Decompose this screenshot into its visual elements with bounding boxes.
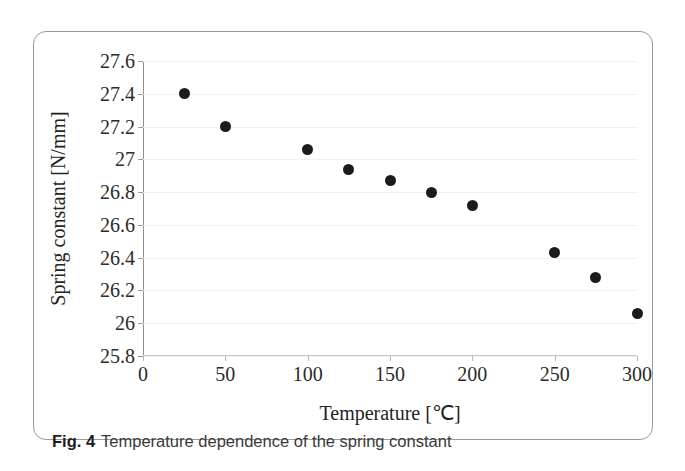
y-gridline (143, 258, 637, 259)
y-axis-line (143, 61, 144, 356)
y-axis-title: Spring constant [N/mm] (46, 61, 70, 356)
y-gridline (143, 225, 637, 226)
x-tick-mark (225, 356, 226, 361)
y-tick-label: 26.4 (100, 248, 135, 268)
y-gridline (143, 159, 637, 160)
x-tick-label: 100 (293, 364, 323, 384)
x-tick-mark (390, 356, 391, 361)
figure-caption-label: Fig. 4 (52, 432, 95, 450)
data-point (632, 308, 643, 319)
data-point (549, 247, 560, 258)
y-tick-mark (138, 290, 143, 291)
x-tick-label: 200 (457, 364, 487, 384)
y-tick-mark (138, 192, 143, 193)
x-tick-label: 250 (540, 364, 570, 384)
y-tick-label: 27 (115, 149, 135, 169)
data-point (426, 187, 437, 198)
y-tick-mark (138, 225, 143, 226)
data-point (220, 121, 231, 132)
y-tick-mark (138, 94, 143, 95)
y-gridline (143, 127, 637, 128)
data-point (343, 164, 354, 175)
y-tick-mark (138, 159, 143, 160)
figure-caption-text: Temperature dependence of the spring con… (101, 432, 451, 450)
x-tick-mark (143, 356, 144, 361)
y-gridline (143, 192, 637, 193)
chart-canvas: Spring constant [N/mm] 25.82626.226.426.… (34, 32, 654, 377)
data-point (467, 200, 478, 211)
data-point (385, 175, 396, 186)
x-tick-mark (637, 356, 638, 361)
x-tick-label: 150 (375, 364, 405, 384)
data-point (302, 144, 313, 155)
y-tick-label: 25.8 (100, 346, 135, 366)
x-tick-mark (308, 356, 309, 361)
x-tick-label: 50 (215, 364, 235, 384)
x-tick-label: 0 (138, 364, 148, 384)
x-axis-title: Temperature [℃] (143, 403, 637, 423)
y-tick-mark (138, 323, 143, 324)
y-tick-label: 27.6 (100, 51, 135, 71)
figure-caption: Fig. 4Temperature dependence of the spri… (52, 432, 636, 452)
y-gridline (143, 94, 637, 95)
y-tick-label: 26.2 (100, 280, 135, 300)
y-gridline (143, 290, 637, 291)
data-point (179, 88, 190, 99)
x-tick-label: 300 (622, 364, 652, 384)
y-gridline (143, 61, 637, 62)
y-tick-label: 26.6 (100, 215, 135, 235)
x-tick-mark (472, 356, 473, 361)
figure-card: Spring constant [N/mm] 25.82626.226.426.… (33, 31, 653, 440)
y-tick-mark (138, 61, 143, 62)
y-tick-label: 27.2 (100, 117, 135, 137)
y-tick-mark (138, 258, 143, 259)
plot-area: 25.82626.226.426.626.82727.227.427.6 050… (143, 61, 637, 356)
y-tick-label: 26.8 (100, 182, 135, 202)
y-tick-label: 27.4 (100, 84, 135, 104)
data-point (590, 272, 601, 283)
y-tick-mark (138, 127, 143, 128)
y-gridline (143, 323, 637, 324)
y-tick-label: 26 (115, 313, 135, 333)
x-tick-mark (555, 356, 556, 361)
